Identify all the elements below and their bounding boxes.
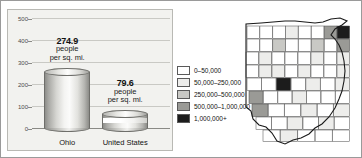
county bbox=[276, 78, 290, 91]
county bbox=[311, 26, 324, 39]
county bbox=[287, 117, 302, 130]
county bbox=[262, 78, 276, 91]
county bbox=[337, 26, 350, 39]
bar-top-ellipse bbox=[44, 68, 90, 76]
county bbox=[268, 104, 284, 117]
county bbox=[311, 52, 324, 65]
county bbox=[306, 78, 320, 91]
county bbox=[247, 39, 260, 52]
y-axis-tick-label: 500 bbox=[9, 16, 28, 22]
legend-swatch bbox=[177, 90, 190, 99]
bar-highlight-band bbox=[103, 118, 147, 123]
county bbox=[272, 65, 285, 78]
county bbox=[324, 52, 337, 65]
y-axis-tick-mark bbox=[28, 85, 32, 86]
county bbox=[333, 130, 350, 142]
ohio-county-map bbox=[239, 7, 357, 153]
county bbox=[259, 65, 272, 78]
county bbox=[285, 104, 301, 117]
county bbox=[307, 91, 321, 104]
y-axis-tick-mark bbox=[28, 107, 32, 108]
county bbox=[298, 52, 311, 65]
bar-value-label: 274.9peopleper sq. mi. bbox=[36, 37, 98, 63]
y-axis-tick-label: 0 bbox=[9, 126, 28, 132]
bar-cylinder-ohio bbox=[44, 68, 90, 128]
y-axis-tick-label: 400 bbox=[9, 38, 28, 44]
county bbox=[263, 91, 277, 104]
y-axis-tick-label: 200 bbox=[9, 82, 28, 88]
county bbox=[249, 91, 263, 104]
gridline-300: 300 bbox=[32, 62, 170, 63]
county bbox=[299, 26, 312, 39]
county bbox=[260, 26, 273, 39]
county bbox=[321, 91, 335, 104]
county bbox=[256, 117, 271, 130]
bar-unit-line-2: per sq. mi. bbox=[94, 96, 156, 105]
county bbox=[324, 65, 337, 78]
legend-label: 0–50,000 bbox=[194, 66, 221, 75]
county bbox=[311, 65, 324, 78]
county bbox=[324, 39, 337, 52]
y-axis-tick-mark bbox=[28, 41, 32, 42]
y-axis-tick-mark bbox=[28, 19, 32, 20]
county bbox=[321, 78, 335, 91]
county bbox=[285, 52, 298, 65]
county bbox=[252, 104, 268, 117]
county bbox=[272, 52, 285, 65]
county bbox=[273, 39, 286, 52]
y-axis-tick-label: 300 bbox=[9, 60, 28, 66]
county bbox=[291, 78, 305, 91]
legend-swatch bbox=[177, 66, 190, 75]
legend-label: 250,000–500,000 bbox=[194, 90, 245, 99]
county bbox=[286, 26, 299, 39]
county bbox=[315, 130, 332, 142]
county bbox=[259, 52, 272, 65]
county bbox=[285, 65, 298, 78]
category-label-united-states: United States bbox=[88, 138, 162, 147]
county bbox=[272, 117, 287, 130]
county bbox=[246, 65, 259, 78]
legend-label: 1,000,000+ bbox=[194, 114, 227, 123]
bar-cylinder-united-states bbox=[102, 110, 148, 128]
legend-swatch bbox=[177, 114, 190, 123]
county bbox=[298, 65, 311, 78]
y-axis-tick-mark bbox=[28, 129, 32, 130]
county bbox=[311, 39, 324, 52]
county bbox=[247, 78, 261, 91]
county bbox=[273, 26, 286, 39]
population-density-figure: 5004003002001000 274.9peopleper sq. mi.7… bbox=[0, 0, 362, 158]
county bbox=[246, 52, 259, 65]
county bbox=[247, 26, 260, 39]
county bbox=[324, 26, 337, 39]
county bbox=[337, 65, 350, 78]
gridline-500: 500 bbox=[32, 18, 170, 19]
county bbox=[301, 104, 317, 117]
legend-label: 50,000–250,000 bbox=[194, 78, 241, 87]
bar-body bbox=[44, 72, 90, 128]
legend-swatch bbox=[177, 78, 190, 87]
bar-value-label: 79.6peopleper sq. mi. bbox=[94, 79, 156, 105]
legend-swatch bbox=[177, 102, 190, 111]
bar-unit-line-2: per sq. mi. bbox=[36, 54, 98, 63]
y-axis-tick-label: 100 bbox=[9, 104, 28, 110]
county bbox=[286, 39, 299, 52]
county bbox=[292, 91, 306, 104]
bar-chart-panel: 5004003002001000 274.9peopleper sq. mi.7… bbox=[7, 9, 173, 151]
y-axis-tick-mark bbox=[28, 63, 32, 64]
county bbox=[299, 39, 312, 52]
county bbox=[334, 117, 349, 130]
county bbox=[278, 91, 292, 104]
county bbox=[260, 39, 273, 52]
